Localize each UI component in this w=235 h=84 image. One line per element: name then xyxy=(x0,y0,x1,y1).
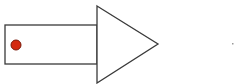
red-dot-marker xyxy=(11,40,21,50)
arrow-svg xyxy=(0,0,235,84)
arrow-diagram xyxy=(0,0,235,84)
gray-speck xyxy=(232,43,234,45)
arrow-head xyxy=(97,6,158,83)
